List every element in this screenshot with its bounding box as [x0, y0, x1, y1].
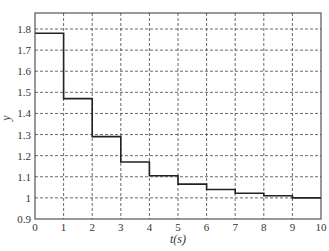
y-tick-label: 0.9 [17, 213, 31, 225]
y-tick-label: 1 [26, 192, 32, 204]
y-tick-label: 1.6 [17, 65, 31, 77]
x-tick-label: 9 [290, 221, 296, 233]
y-tick-label: 1.5 [17, 86, 31, 98]
x-tick-label: 8 [261, 221, 267, 233]
x-tick-label: 10 [316, 221, 328, 233]
x-tick-label: 6 [204, 221, 210, 233]
grid-lines [35, 13, 321, 219]
y-tick-label: 1.3 [17, 129, 31, 141]
step-response-chart: 012345678910 0.911.11.21.31.41.51.61.71.… [0, 0, 329, 251]
y-axis-label: y [0, 115, 13, 122]
x-tick-label: 0 [32, 221, 38, 233]
y-tick-label: 1.4 [17, 107, 31, 119]
x-axis-label: t(s) [170, 232, 186, 246]
y-tick-label: 1.2 [17, 150, 31, 162]
x-tick-label: 1 [61, 221, 67, 233]
y-tick-label: 1.7 [17, 44, 31, 56]
x-tick-label: 7 [232, 221, 238, 233]
x-tick-label: 3 [118, 221, 124, 233]
y-tick-label: 1.8 [17, 23, 31, 35]
y-axis-ticks: 0.911.11.21.31.41.51.61.71.8 [17, 23, 31, 225]
x-tick-label: 4 [147, 221, 153, 233]
x-tick-label: 2 [89, 221, 95, 233]
y-tick-label: 1.1 [17, 171, 31, 183]
